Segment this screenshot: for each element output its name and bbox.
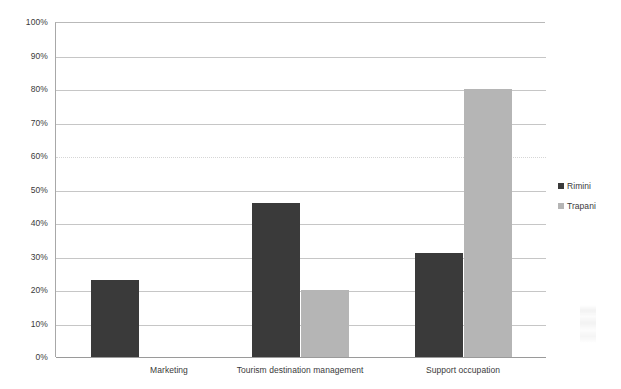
legend-item-trapani[interactable]: Trapani	[558, 196, 618, 216]
y-axis-tick-100: 100%	[4, 17, 48, 27]
y-axis-tick-0: 0%	[4, 352, 48, 362]
legend-swatch-icon-rimini	[558, 183, 564, 189]
bar-tourism-destination-management-trapani[interactable]	[301, 290, 349, 357]
bar-tourism-destination-management-rimini[interactable]	[252, 203, 300, 357]
x-axis-label-marketing: Marketing	[150, 365, 188, 375]
chart-legend: Rimini Trapani	[558, 176, 618, 216]
bar-support-occupation-rimini[interactable]	[415, 253, 463, 357]
y-axis-tick-80: 80%	[4, 84, 48, 94]
bar-marketing-rimini[interactable]	[91, 280, 139, 357]
bar-support-occupation-trapani[interactable]	[464, 89, 512, 357]
y-axis-tick-10: 10%	[4, 319, 48, 329]
y-axis-tick-20: 20%	[4, 285, 48, 295]
x-axis-label-support-occupation: Support occupation	[426, 365, 500, 375]
legend-swatch-icon-trapani	[558, 203, 564, 209]
bar-chart: 100% 90% 80% 70% 60% 50% 40% 30% 20% 10%…	[0, 0, 621, 389]
gridline-90	[56, 57, 546, 58]
y-axis-tick-50: 50%	[4, 185, 48, 195]
y-axis-tick-90: 90%	[4, 51, 48, 61]
y-axis-tick-70: 70%	[4, 118, 48, 128]
gridline-0	[56, 357, 546, 358]
x-axis-label-tourism-destination-management: Tourism destination management	[237, 365, 364, 375]
legend-label-trapani: Trapani	[567, 201, 596, 211]
y-axis-tick-40: 40%	[4, 218, 48, 228]
y-axis-tick-30: 30%	[4, 252, 48, 262]
legend-item-rimini[interactable]: Rimini	[558, 176, 618, 196]
scan-artifact	[580, 305, 596, 343]
legend-label-rimini: Rimini	[567, 181, 591, 191]
plot-area	[55, 22, 545, 357]
y-axis-tick-60: 60%	[4, 151, 48, 161]
